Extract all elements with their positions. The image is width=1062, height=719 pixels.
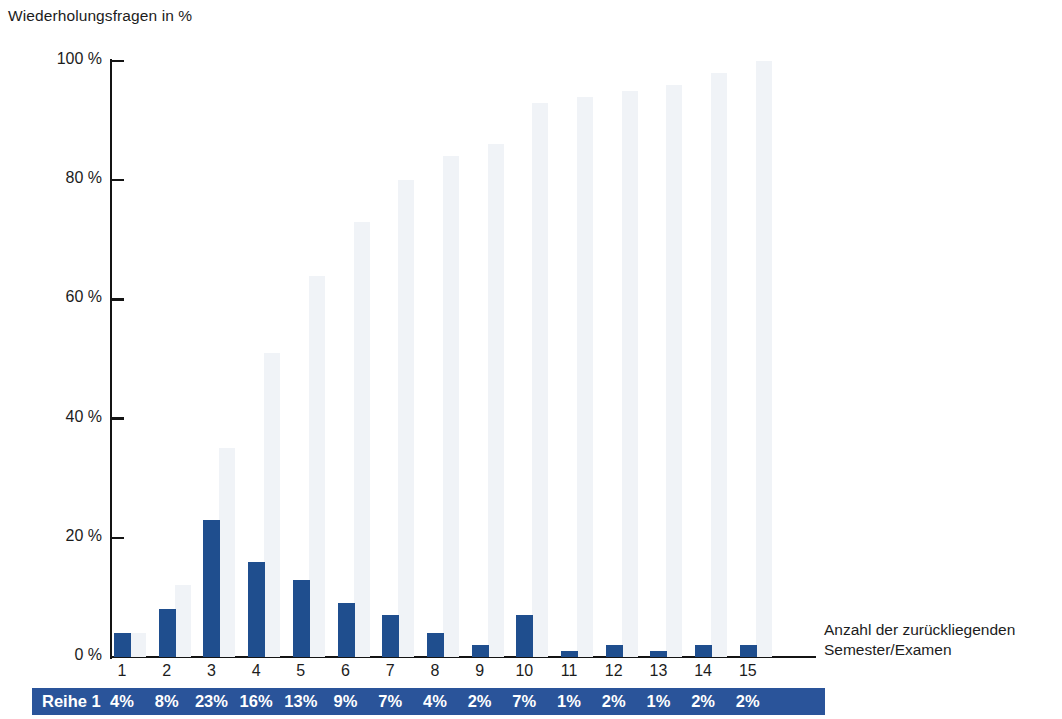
bar-cumulative	[309, 276, 325, 657]
x-axis-tick-label: 5	[296, 662, 305, 680]
x-axis-tick-label: 6	[341, 662, 350, 680]
x-axis-tick-label: 8	[430, 662, 439, 680]
bar-reihe1	[472, 645, 489, 657]
x-axis-tick-label: 3	[207, 662, 216, 680]
bar-cumulative	[622, 91, 638, 657]
bar-reihe1	[203, 520, 220, 657]
bar-cumulative	[532, 103, 548, 657]
y-axis-tick-labels: 0 %20 %40 %60 %80 %100 %	[0, 0, 102, 719]
x-axis-tick-label: 7	[386, 662, 395, 680]
x-axis-tick-label: 1	[118, 662, 127, 680]
y-axis-tick-label: 40 %	[66, 408, 102, 426]
bar-cumulative	[756, 61, 772, 657]
table-cell: 7%	[378, 692, 402, 711]
bar-cumulative	[175, 585, 191, 657]
bar-reihe1	[561, 651, 578, 657]
bar-cumulative	[666, 85, 682, 657]
bar-cumulative	[488, 144, 504, 657]
bar-reihe1	[338, 603, 355, 657]
bar-reihe1	[427, 633, 444, 657]
table-cell: 13%	[284, 692, 317, 711]
bar-cumulative	[398, 180, 414, 657]
y-axis-tick-label: 0 %	[74, 646, 102, 664]
bar-cumulative	[130, 633, 146, 657]
table-cell: 7%	[512, 692, 536, 711]
table-cell: 2%	[736, 692, 760, 711]
bar-cumulative	[219, 448, 235, 657]
table-cell: 16%	[240, 692, 273, 711]
x-axis-tick-label: 14	[694, 662, 712, 680]
table-cell: 2%	[468, 692, 492, 711]
bar-reihe1	[248, 562, 265, 657]
table-cell: 2%	[691, 692, 715, 711]
bar-cumulative	[443, 156, 459, 657]
table-cell: 1%	[646, 692, 670, 711]
table-cell: 9%	[334, 692, 358, 711]
bar-reihe1	[382, 615, 399, 657]
table-cell: 4%	[110, 692, 134, 711]
table-cell: 8%	[155, 692, 179, 711]
data-table-band: Reihe 1 4%8%23%16%13%9%7%4%2%7%1%2%1%2%2…	[32, 688, 825, 715]
bar-cumulative	[711, 73, 727, 657]
bar-cumulative	[354, 222, 370, 657]
table-cell: 2%	[602, 692, 626, 711]
bar-reihe1	[695, 645, 712, 657]
x-axis-caption-line2: Semester/Examen	[824, 640, 1015, 660]
x-axis-tick-label: 4	[252, 662, 261, 680]
y-axis-tick-label: 60 %	[66, 288, 102, 306]
x-axis-tick-label: 2	[162, 662, 171, 680]
x-axis-tick-label: 10	[515, 662, 533, 680]
y-axis-tick-label: 20 %	[66, 527, 102, 545]
bar-reihe1	[740, 645, 757, 657]
x-axis-caption-line1: Anzahl der zurückliegenden	[824, 620, 1015, 640]
series-row-label: Reihe 1	[42, 692, 101, 711]
bar-reihe1	[650, 651, 667, 657]
x-axis-tick-label: 9	[475, 662, 484, 680]
x-axis-tick-label: 11	[561, 662, 578, 680]
table-cell: 1%	[557, 692, 581, 711]
bar-reihe1	[606, 645, 623, 657]
bar-cumulative	[577, 97, 593, 657]
y-axis-tick-label: 100 %	[57, 50, 102, 68]
x-axis-caption: Anzahl der zurückliegenden Semester/Exam…	[824, 620, 1015, 661]
bar-reihe1	[516, 615, 533, 657]
plot-area	[110, 61, 822, 657]
table-cell: 23%	[195, 692, 228, 711]
bar-reihe1	[159, 609, 176, 657]
x-axis-tick-label: 13	[649, 662, 667, 680]
x-axis-tick-label: 15	[739, 662, 757, 680]
bar-reihe1	[293, 580, 310, 657]
y-axis-tick-label: 80 %	[66, 169, 102, 187]
bar-reihe1	[114, 633, 131, 657]
x-axis-tick-label: 12	[605, 662, 623, 680]
bar-cumulative	[264, 353, 280, 657]
table-cell: 4%	[423, 692, 447, 711]
